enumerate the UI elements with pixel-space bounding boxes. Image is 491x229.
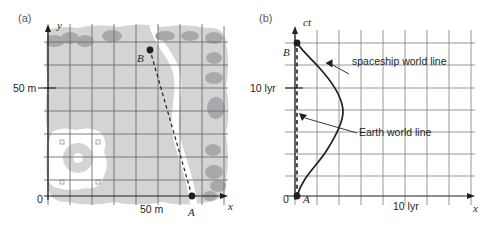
- panel-b-x-tick-label: 10 lyr: [393, 200, 419, 212]
- panel-a-origin-label: 0: [37, 193, 43, 205]
- event-a-marker: [294, 193, 301, 200]
- park-center: [73, 153, 83, 163]
- panel-a-map: (a): [0, 0, 246, 229]
- y-axis-arrowhead: [45, 24, 51, 32]
- panel-b-spacetime: (b): [245, 0, 491, 229]
- tree-blob: [102, 30, 122, 42]
- spaceship-world-line-annotation: spaceship world line: [352, 55, 447, 67]
- panel-a-y-tick-label: 50 m: [13, 82, 36, 94]
- spaceship-world-line: [297, 43, 343, 196]
- panel-b-origin-label: 0: [283, 193, 289, 205]
- panel-a-y-axis-label: y: [57, 19, 62, 31]
- earth-world-line-annotation: Earth world line: [359, 126, 431, 138]
- tree-blob: [205, 165, 223, 179]
- panel-a-x-tick-label: 50 m: [140, 203, 163, 215]
- tree-blob: [205, 72, 223, 84]
- earth-annotation-arrowhead: [299, 113, 307, 121]
- panel-b-graphic: [245, 0, 491, 229]
- tree-blob: [205, 144, 221, 156]
- panel-a-point-b-label: B: [137, 52, 144, 64]
- tree-blob: [207, 97, 225, 119]
- panel-b-event-a-label: A: [303, 193, 310, 205]
- figure-root: (a): [0, 0, 491, 229]
- panel-a-point-a-label: A: [188, 206, 195, 218]
- panel-b-x-axis-label: x: [473, 202, 478, 214]
- point-b-marker: [147, 47, 154, 54]
- panel-b-event-b-label: B: [283, 46, 290, 58]
- point-a-marker: [189, 193, 196, 200]
- panel-b-ct-axis-label: ct: [303, 16, 311, 28]
- panel-b-y-tick-label: 10 lyr: [250, 82, 276, 94]
- tree-blob: [181, 31, 199, 41]
- ct-axis-arrowhead: [292, 26, 298, 34]
- spaceship-annotation-arrowhead: [326, 59, 336, 69]
- tree-blob: [206, 52, 222, 64]
- earth-annotation-leader: [305, 118, 357, 133]
- event-b-marker: [294, 40, 301, 47]
- panel-a-x-axis-label: x: [228, 200, 233, 212]
- tree-blob: [76, 35, 94, 47]
